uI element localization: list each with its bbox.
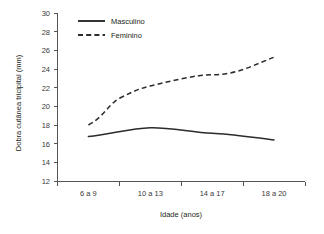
y-tick-label-28: 28	[42, 28, 50, 37]
x-tick-label-3: 14 a 17	[200, 189, 225, 198]
x-tick-label-4: 18 a 20	[261, 189, 286, 198]
y-tick-label-18: 18	[42, 121, 50, 130]
y-tick-label-20: 20	[42, 102, 50, 111]
x-axis-title: Idade (anos)	[160, 210, 203, 219]
legend-label-feminino: Feminino	[111, 31, 142, 40]
y-tick-label-30: 30	[42, 9, 50, 18]
y-tick-label-16: 16	[42, 140, 50, 149]
y-tick-label-14: 14	[42, 158, 50, 167]
triceps-skinfold-line-chart: Dobra cutânea tricipital (mm) 30 28 26 2…	[0, 0, 324, 234]
y-tick-label-12: 12	[42, 177, 50, 186]
legend-label-masculino: Masculino	[111, 17, 145, 26]
y-tick-label-24: 24	[42, 65, 50, 74]
y-axis-title: Dobra cutânea tricipital (mm)	[14, 54, 23, 151]
y-tick-label-22: 22	[42, 84, 50, 93]
chart-figure: Dobra cutânea tricipital (mm) 30 28 26 2…	[0, 0, 324, 234]
x-tick-label-2: 10 a 13	[138, 189, 163, 198]
x-tick-label-1: 6 a 9	[80, 189, 97, 198]
y-tick-label-26: 26	[42, 46, 50, 55]
